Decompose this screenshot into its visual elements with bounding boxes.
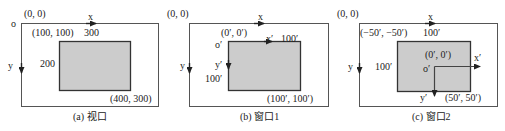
inner-origin-letter: o′: [215, 40, 222, 50]
inner-origin-coord: (0′, 0′): [425, 50, 451, 60]
inner-y-axis-label: y′: [420, 93, 427, 103]
height-label: 100′: [205, 74, 222, 84]
height-label: 100′: [375, 62, 392, 72]
width-label: 300: [84, 28, 99, 38]
width-label: 100′: [423, 28, 440, 38]
x-axis-label: x: [258, 12, 263, 22]
origin-letter: o: [11, 19, 16, 29]
origin-coord: (0, 0): [337, 9, 359, 19]
window1-region: [229, 42, 301, 91]
origin-coord: (0, 0): [167, 9, 189, 19]
top-left-coord: (−50′, −50′): [360, 28, 407, 38]
caption-b: (b) 窗口1: [240, 111, 279, 122]
viewport-region: [60, 42, 131, 91]
width-label: 100′: [281, 34, 298, 44]
y-axis-label: y: [8, 61, 13, 71]
inner-y-axis-label: y′: [215, 60, 222, 70]
x-axis-label: x: [88, 12, 93, 22]
bottom-right-coord: (50′, 50′): [445, 93, 481, 103]
x-axis-label: x: [428, 12, 433, 22]
origin-coord: (0, 0): [24, 9, 46, 19]
bottom-right-coord: (400, 300): [110, 94, 152, 104]
y-axis-label: y: [180, 61, 185, 71]
inner-x-axis-label: x′: [474, 53, 481, 63]
top-left-coord: (100, 100): [32, 28, 74, 38]
inner-origin-coord: (0′, 0′): [221, 28, 247, 38]
bottom-right-coord: (100′, 100′): [267, 94, 313, 104]
inner-origin-letter: o′: [423, 64, 430, 74]
height-label: 200: [40, 59, 55, 69]
caption-a: (a) 视口: [73, 111, 107, 122]
inner-x-axis-label: x′: [266, 34, 273, 44]
caption-c: (c) 窗口2: [412, 111, 451, 122]
y-axis-label: y: [348, 62, 353, 72]
